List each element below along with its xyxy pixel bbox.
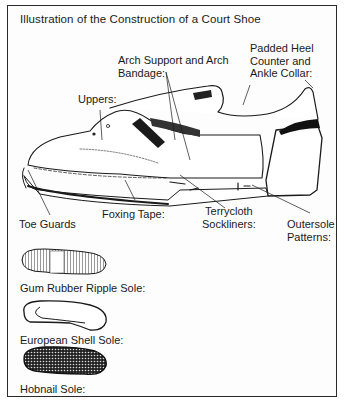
heel-counter <box>266 126 322 196</box>
eyelet <box>92 132 95 135</box>
upper-body <box>28 110 263 178</box>
sole-ripple <box>22 249 106 274</box>
label-foxing-tape: Foxing Tape: <box>102 208 165 221</box>
label-outersole: Outersole Patterns: <box>287 218 335 243</box>
label-padded-heel: Padded Heel Counter and Ankle Collar: <box>250 42 314 80</box>
label-outersole-line2: Patterns: <box>287 231 335 244</box>
diagram-title: Illustration of the Construction of a Co… <box>20 13 261 25</box>
label-outersole-line1: Outersole <box>287 218 335 231</box>
label-terrycloth-line1: Terrycloth <box>202 205 256 218</box>
label-uppers: Uppers: <box>78 93 117 106</box>
label-padded-heel-line3: Ankle Collar: <box>250 67 314 80</box>
sole-marks <box>170 182 250 190</box>
label-hobnail-sole: Hobnail Sole: <box>20 383 85 396</box>
label-arch-support: Arch Support and Arch Bandage: <box>118 54 229 79</box>
shoe-drawing <box>22 86 322 206</box>
label-padded-heel-line2: Counter and <box>250 55 314 68</box>
label-european-shell-sole: European Shell Sole: <box>20 334 123 347</box>
ankle-collar <box>110 86 318 119</box>
sole-hobnail <box>24 347 106 375</box>
label-padded-heel-line1: Padded Heel <box>250 42 314 55</box>
sole-shell <box>24 301 106 330</box>
eyelet <box>106 124 109 127</box>
label-arch-support-line2: Bandage: <box>118 67 229 80</box>
label-toe-guards: Toe Guards <box>19 218 76 231</box>
label-arch-support-line1: Arch Support and Arch <box>118 54 229 67</box>
label-terrycloth-line2: Sockliners: <box>202 218 256 231</box>
label-terrycloth: Terrycloth Sockliners: <box>202 205 256 230</box>
label-gum-rubber-sole: Gum Rubber Ripple Sole: <box>20 282 145 295</box>
